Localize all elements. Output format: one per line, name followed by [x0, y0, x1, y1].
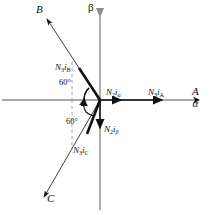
axis-label-alpha: α — [192, 98, 199, 110]
n2ia-i-sub: α — [118, 92, 121, 98]
diagram-canvas — [0, 0, 209, 215]
n2ib-i-sub: β — [116, 129, 119, 135]
n3ib-i-sub: B — [67, 67, 71, 73]
angle-label-upper: 60° — [59, 78, 71, 87]
n3ia-i-sub: A — [160, 92, 164, 98]
axis-label-A: A — [192, 86, 199, 98]
axis-label-c: C — [47, 193, 54, 204]
vector-n3-ib — [79, 68, 100, 100]
vector-label-n3-ib: N3iB — [55, 63, 71, 73]
angle-arc-upper-2 — [84, 88, 89, 100]
vector-label-n3-ia: N3iA — [148, 88, 164, 98]
vector-label-n2-ibeta: N2iβ — [104, 125, 119, 135]
vector-label-n2-ialpha: N2iα — [106, 88, 121, 98]
axis-label-beta: β — [88, 2, 94, 13]
vector-n3-ic — [87, 100, 100, 134]
phasor-diagram-figure: B C β A α N3iB N3iC N2iα N3iA N2iβ 60° 6… — [0, 0, 209, 215]
axis-label-alpha-A-stack: A α — [192, 86, 199, 109]
angle-label-lower: 60° — [66, 117, 78, 126]
axis-label-b: B — [36, 4, 43, 15]
angle-arc-lower — [84, 100, 86, 112]
vector-label-n3-ic: N3iC — [73, 146, 89, 156]
n3ic-i-sub: C — [85, 150, 89, 156]
